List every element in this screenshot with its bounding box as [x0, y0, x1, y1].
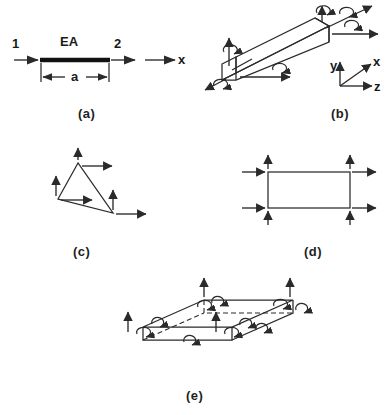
panel-e-plate-element: [128, 278, 308, 345]
beam-near-node-moment-z: [273, 63, 287, 73]
x-axis-label-a: x: [178, 52, 185, 67]
beam-near-node-axis-line: [232, 59, 252, 70]
panel-d-rectangle-element: [242, 155, 376, 225]
triad-label-y: y: [330, 58, 337, 73]
length-label: a: [71, 69, 78, 84]
beam-far-node-moment-y: [316, 6, 330, 15]
plate-corner-back-left-moment-y: [212, 296, 224, 306]
coordinate-triad: [340, 62, 372, 86]
panel-label-c: (c): [73, 244, 90, 259]
triangle-element-body: [58, 163, 113, 213]
beam-front-face: [222, 26, 329, 80]
rectangle-element-body: [268, 172, 350, 208]
beam-near-node-moment-y: [223, 45, 237, 54]
node-1-label: 1: [12, 36, 19, 51]
plate-corner-back-right-moment-y: [296, 303, 308, 313]
panel-label-d: (d): [304, 244, 322, 259]
beam-top-face: [236, 18, 329, 73]
panel-a-bar-element: [14, 60, 175, 82]
panel-b-beam-element: [205, 6, 378, 90]
panel-label-a: (a): [78, 106, 95, 121]
plate-corner-back-left-moment-x: [198, 300, 212, 310]
triad-axis-x: [340, 64, 371, 86]
beam-prism: [222, 18, 329, 80]
beam-far-node-moment-z: [345, 20, 359, 30]
panel-label-b: (b): [331, 106, 349, 121]
panel-label-e: (e): [186, 388, 203, 403]
panel-c-triangle-element: [56, 148, 146, 214]
triad-label-z: z: [374, 79, 381, 94]
stiffness-label: EA: [60, 34, 78, 49]
beam-far-node-moment-x: [340, 7, 354, 17]
triad-label-x: x: [373, 54, 380, 69]
plate-front-face: [143, 327, 232, 340]
finite-element-figure: 1 EA 2 x a y x z (a) (b) (c) (d) (e): [0, 0, 391, 415]
node-2-label: 2: [114, 36, 121, 51]
